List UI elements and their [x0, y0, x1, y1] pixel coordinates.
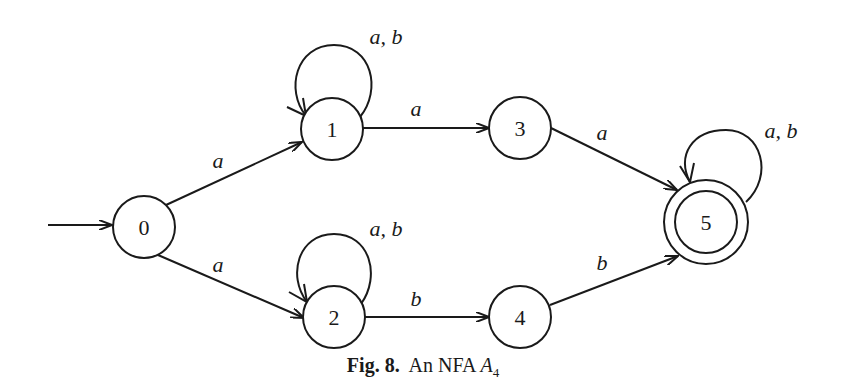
edge-label-1-3: a: [411, 96, 422, 121]
state-label: 2: [329, 305, 340, 330]
edge-label-loop-1: a, b: [370, 24, 403, 49]
edge-3-5: [551, 128, 677, 190]
nfa-diagram: 0 1 2 3 4 5 a a a, b a, b a b a b a, b: [0, 0, 846, 388]
figure-number: Fig. 8.: [347, 354, 400, 376]
edge-label-loop-5: a, b: [765, 118, 798, 143]
state-4: 4: [489, 286, 551, 348]
edge-4-5: [550, 256, 678, 305]
caption-text: An NFA: [409, 354, 476, 376]
edge-label-loop-2: a, b: [370, 216, 403, 241]
edge-label-2-4: b: [411, 286, 422, 311]
edge-label-4-5: b: [597, 250, 608, 275]
state-label: 3: [515, 116, 526, 141]
state-label: 1: [327, 117, 338, 142]
caption-subscript: 4: [493, 365, 500, 380]
edge-0-2: [158, 255, 304, 318]
state-label: 0: [139, 215, 150, 240]
caption-symbol: A: [480, 354, 492, 376]
state-3: 3: [489, 97, 551, 159]
state-0: 0: [113, 196, 175, 258]
state-1: 1: [301, 98, 363, 160]
edge-label-3-5: a: [597, 120, 608, 145]
figure-caption: Fig. 8. An NFA A4: [0, 354, 846, 381]
state-5-accepting: 5: [664, 180, 748, 264]
edge-0-1: [166, 142, 302, 205]
edge-label-0-2: a: [213, 252, 224, 277]
state-label: 5: [701, 210, 712, 235]
edge-label-0-1: a: [213, 148, 224, 173]
state-label: 4: [515, 305, 526, 330]
state-2: 2: [303, 286, 365, 348]
